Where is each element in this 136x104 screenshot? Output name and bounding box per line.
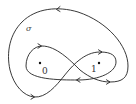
loop-diagram: σ 0 1 [0,0,136,104]
point-1-label: 1 [91,64,97,74]
point-0-dot [39,62,41,64]
sigma-label: σ [26,24,32,33]
sigma-curve [9,9,129,97]
point-1-dot [98,62,100,64]
point-0-label: 0 [42,66,48,76]
